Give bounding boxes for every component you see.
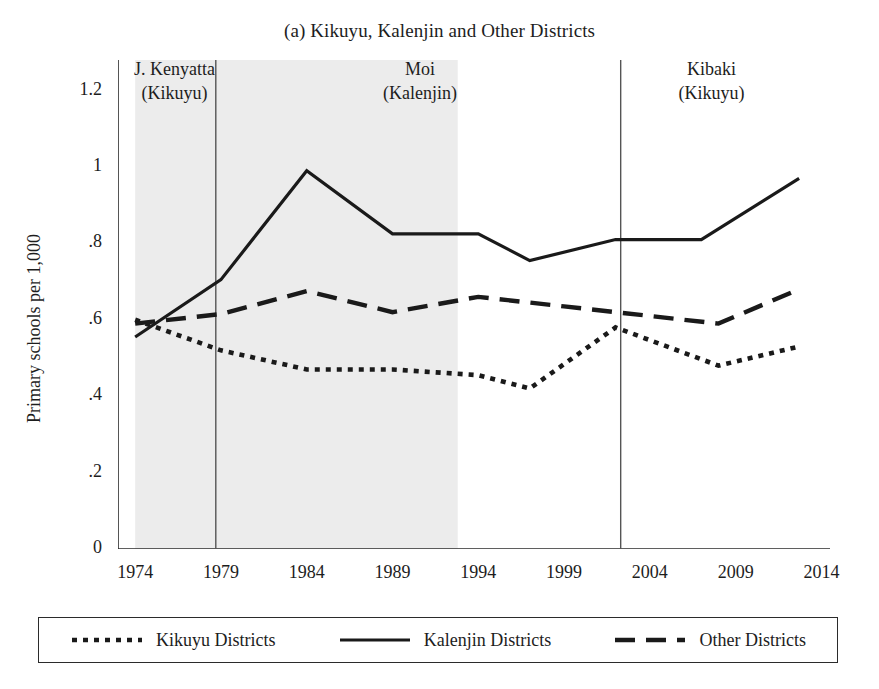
legend-label: Kikuyu Districts <box>156 630 276 651</box>
y-tick-label: 0 <box>30 537 102 558</box>
y-tick-label: .4 <box>30 384 102 405</box>
period-label-leader: J. Kenyatta <box>65 58 285 82</box>
period-label-kibaki: Kibaki(Kikuyu) <box>602 58 822 106</box>
legend-item-other-districts[interactable]: Other Districts <box>613 630 805 651</box>
x-tick-label: 2004 <box>605 562 695 583</box>
legend-swatch-solid <box>338 633 412 647</box>
period-label-leader: Moi <box>310 58 530 82</box>
period-label-kenyatta: J. Kenyatta(Kikuyu) <box>65 58 285 106</box>
legend-item-kikuyu-districts[interactable]: Kikuyu Districts <box>70 630 276 651</box>
y-tick-label: .8 <box>30 231 102 252</box>
figure-panel: (a) Kikuyu, Kalenjin and Other Districts… <box>0 0 879 689</box>
x-tick-label: 1994 <box>433 562 523 583</box>
legend: Kikuyu DistrictsKalenjin DistrictsOther … <box>38 617 838 663</box>
y-tick-label: .2 <box>30 461 102 482</box>
chart-title: (a) Kikuyu, Kalenjin and Other Districts <box>0 20 879 42</box>
legend-label: Other Districts <box>699 630 805 651</box>
x-tick-label: 1989 <box>348 562 438 583</box>
period-label-moi: Moi(Kalenjin) <box>310 58 530 106</box>
x-tick-label: 1999 <box>519 562 609 583</box>
legend-swatch-dotted <box>70 633 144 647</box>
line-chart-svg <box>118 60 830 549</box>
plot-area <box>118 60 830 549</box>
legend-swatch-dashed <box>613 633 687 647</box>
x-tick-label: 2014 <box>776 562 866 583</box>
x-tick-label: 1984 <box>262 562 352 583</box>
y-tick-label: .6 <box>30 308 102 329</box>
period-label-leader: Kibaki <box>602 58 822 82</box>
period-label-group: (Kikuyu) <box>602 82 822 106</box>
x-tick-label: 1974 <box>90 562 180 583</box>
legend-item-kalenjin-districts[interactable]: Kalenjin Districts <box>338 630 551 651</box>
x-tick-label: 1979 <box>176 562 266 583</box>
legend-label: Kalenjin Districts <box>424 630 551 651</box>
x-tick-label: 2009 <box>691 562 781 583</box>
y-tick-label: 1 <box>30 155 102 176</box>
legend-items: Kikuyu DistrictsKalenjin DistrictsOther … <box>39 618 837 662</box>
period-label-group: (Kalenjin) <box>310 82 530 106</box>
period-label-group: (Kikuyu) <box>65 82 285 106</box>
